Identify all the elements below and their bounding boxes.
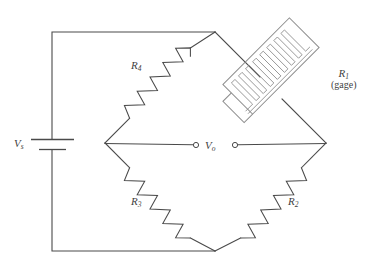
label-r2-symbol: R <box>288 195 295 207</box>
label-r1-subscript: 1 <box>345 72 349 81</box>
resistor-r1-gage-arm <box>215 32 326 143</box>
label-vo: Vo <box>205 139 215 151</box>
label-vo-subscript: o <box>212 144 216 153</box>
output-terminal-right[interactable] <box>232 142 237 147</box>
resistor-r4 <box>105 32 215 143</box>
circuit-canvas <box>0 0 365 268</box>
label-r4-subscript: 4 <box>138 64 142 73</box>
battery-symbol <box>31 140 74 150</box>
wire-output-left <box>105 144 193 145</box>
output-terminal-left[interactable] <box>193 142 198 147</box>
label-vo-symbol: V <box>205 139 212 151</box>
gage-tab <box>223 93 253 123</box>
strain-gage-icon <box>214 18 319 123</box>
wire-r2-lower-lead <box>215 238 241 251</box>
wire-r1-lower-lead <box>282 99 326 143</box>
label-vs-subscript: s <box>21 142 24 151</box>
circuit-diagram: Vs Vo R1(gage) R2 R3 R4 <box>0 0 365 268</box>
label-r2: R2 <box>288 195 298 207</box>
resistor-r3 <box>105 143 215 251</box>
label-r4-symbol: R <box>131 59 138 71</box>
wire-r4-upper-lead <box>190 32 215 48</box>
label-r3: R3 <box>131 195 141 207</box>
label-vs: Vs <box>14 137 24 149</box>
wire-r2-upper-lead <box>301 143 326 168</box>
resistor-r2 <box>215 143 326 251</box>
label-vs-symbol: V <box>14 137 21 149</box>
label-r3-subscript: 3 <box>138 200 142 209</box>
label-r2-subscript: 2 <box>295 200 299 209</box>
wire-output-right <box>238 144 326 145</box>
wire-r4-lower-lead <box>105 118 130 143</box>
wire-r3-upper-lead <box>105 143 130 168</box>
label-r1: R1(gage) <box>331 67 357 91</box>
label-r3-symbol: R <box>131 195 138 207</box>
wire-r3-lower-lead <box>190 238 215 251</box>
label-r4: R4 <box>131 59 141 71</box>
label-r1-note: (gage) <box>331 79 357 90</box>
